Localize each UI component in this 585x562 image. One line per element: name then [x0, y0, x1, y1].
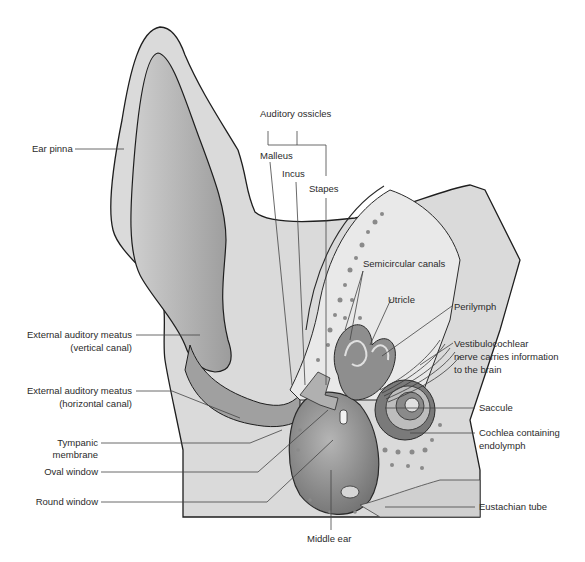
label-eam-horizontal-2: (horizontal canal)	[59, 398, 132, 410]
label-eustachian-tube: Eustachian tube	[479, 501, 547, 513]
label-auditory-ossicles: Auditory ossicles	[260, 108, 331, 120]
label-utricle: Utricle	[388, 294, 415, 306]
label-perilymph: Perilymph	[454, 301, 496, 313]
label-vestibulocochlear-3: to the brain	[454, 364, 502, 376]
label-vestibulocochlear-1: Vestibulocochlear	[454, 338, 528, 350]
label-tympanic-1: Tympanic	[57, 437, 98, 449]
label-round-window: Round window	[36, 496, 98, 508]
label-eam-vertical-2: (vertical canal)	[70, 342, 132, 354]
label-oval-window: Oval window	[44, 466, 98, 478]
inner-pinna	[131, 53, 231, 372]
cochlea	[375, 380, 435, 440]
label-vestibulocochlear-2: nerve carries information	[454, 351, 559, 363]
label-incus: Incus	[282, 168, 305, 180]
label-eam-vertical-1: External auditory meatus	[27, 329, 132, 341]
label-malleus: Malleus	[260, 150, 293, 162]
label-ear-pinna: Ear pinna	[32, 143, 73, 155]
label-middle-ear: Middle ear	[307, 533, 351, 545]
label-cochlea-1: Cochlea containing	[479, 427, 560, 439]
label-saccule: Saccule	[479, 402, 513, 414]
label-stapes: Stapes	[309, 183, 339, 195]
label-cochlea-2: endolymph	[479, 440, 525, 452]
label-eam-horizontal-1: External auditory meatus	[27, 385, 132, 397]
label-semicircular-canals: Semicircular canals	[363, 258, 445, 270]
label-tympanic-2: membrane	[53, 449, 98, 461]
